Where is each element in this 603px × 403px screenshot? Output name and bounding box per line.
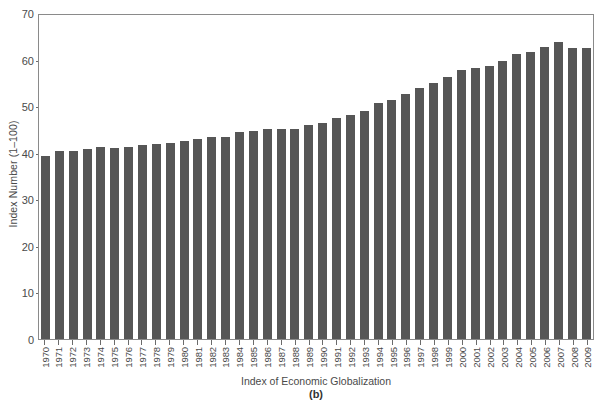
x-tick-label: 1976 (124, 347, 133, 377)
x-tick-label-text: 1999 (443, 347, 454, 368)
x-tick-label: 1970 (40, 347, 49, 377)
x-tick-label: 1974 (96, 347, 105, 377)
bar (540, 47, 549, 339)
bar (152, 144, 161, 339)
x-tick-label-text: 2006 (540, 347, 551, 368)
x-tick-label-text: 1987 (276, 347, 287, 368)
x-tick-mark (583, 340, 592, 345)
x-tick-label-text: 1974 (95, 347, 106, 368)
x-tick-label: 1990 (318, 347, 327, 377)
x-axis-title: Index of Economic Globalization (38, 375, 594, 387)
bar (55, 151, 64, 339)
x-tick-label: 2002 (486, 347, 495, 377)
bar (471, 68, 480, 339)
x-tick-mark (360, 340, 369, 345)
x-tick-label-text: 2005 (526, 347, 537, 368)
x-tick-mark (388, 340, 397, 345)
x-tick-label: 1981 (193, 347, 202, 377)
x-tick-label-text: 1997 (415, 347, 426, 368)
x-tick-label: 1983 (221, 347, 230, 377)
bar (443, 77, 452, 339)
x-tick-label: 1987 (277, 347, 286, 377)
x-tick-label: 1985 (249, 347, 258, 377)
x-tick-label: 2008 (569, 347, 578, 377)
bar (166, 143, 175, 339)
x-tick-mark (249, 340, 258, 345)
x-tick-mark (332, 340, 341, 345)
bar (263, 129, 272, 339)
y-tick-label: 50 (0, 101, 34, 113)
bar (498, 61, 507, 339)
x-tick-mark (346, 340, 355, 345)
x-tick-mark (151, 340, 160, 345)
x-tick-label-text: 1983 (220, 347, 231, 368)
x-tick-label-text: 1979 (164, 347, 175, 368)
bar (207, 137, 216, 339)
x-tick-mark (472, 340, 481, 345)
x-tick-label: 1986 (263, 347, 272, 377)
x-tick-label: 1978 (151, 347, 160, 377)
x-tick-label: 2001 (472, 347, 481, 377)
bar (526, 52, 535, 339)
x-tick-label: 1971 (54, 347, 63, 377)
x-tick-label-text: 1994 (373, 347, 384, 368)
x-axis-tick-labels: 1970197119721973197419751976197719781979… (38, 347, 594, 377)
bar (221, 137, 230, 339)
x-tick-mark (277, 340, 286, 345)
x-tick-mark (235, 340, 244, 345)
x-tick-mark (82, 340, 91, 345)
x-tick-label: 2005 (527, 347, 536, 377)
bar (332, 118, 341, 339)
bar (582, 48, 591, 339)
x-tick-mark (124, 340, 133, 345)
x-tick-mark (305, 340, 314, 345)
y-axis-tick-labels: 010203040506070 (0, 0, 34, 403)
x-tick-mark (263, 340, 272, 345)
bar (360, 111, 369, 339)
x-tick-label-text: 1998 (429, 347, 440, 368)
x-tick-label: 1996 (402, 347, 411, 377)
x-tick-mark (569, 340, 578, 345)
x-tick-label-text: 2003 (498, 347, 509, 368)
x-tick-label-text: 1991 (331, 347, 342, 368)
x-tick-label-text: 1973 (81, 347, 92, 368)
x-tick-mark (444, 340, 453, 345)
x-tick-label-text: 2008 (568, 347, 579, 368)
x-tick-label: 1972 (68, 347, 77, 377)
y-tick-label: 40 (0, 148, 34, 160)
economic-globalization-bar-chart: Index Number (1–100) 010203040506070 197… (0, 0, 603, 403)
x-tick-label-text: 1978 (150, 347, 161, 368)
bar (235, 132, 244, 339)
x-tick-label-text: 1988 (290, 347, 301, 368)
bar (193, 139, 202, 339)
x-tick-mark (179, 340, 188, 345)
x-tick-label-text: 1989 (304, 347, 315, 368)
x-tick-label: 1982 (207, 347, 216, 377)
x-tick-label: 1999 (444, 347, 453, 377)
x-tick-mark (137, 340, 146, 345)
x-tick-mark (40, 340, 49, 345)
x-tick-label: 1984 (235, 347, 244, 377)
x-tick-mark (291, 340, 300, 345)
x-tick-mark (318, 340, 327, 345)
x-tick-label-text: 1972 (67, 347, 78, 368)
bar (415, 88, 424, 339)
x-tick-mark (374, 340, 383, 345)
bar (83, 149, 92, 339)
x-tick-mark (193, 340, 202, 345)
y-tick-label: 30 (0, 194, 34, 206)
x-tick-mark (207, 340, 216, 345)
x-tick-label: 2007 (555, 347, 564, 377)
x-tick-label-text: 1992 (345, 347, 356, 368)
x-tick-label-text: 1990 (317, 347, 328, 368)
bar (69, 151, 78, 339)
bar (290, 129, 299, 340)
x-tick-label-text: 1970 (39, 347, 50, 368)
bar (318, 123, 327, 339)
x-tick-label-text: 1995 (387, 347, 398, 368)
x-tick-label-text: 1971 (53, 347, 64, 368)
x-tick-mark (458, 340, 467, 345)
y-tick-label: 10 (0, 287, 34, 299)
x-tick-label: 2009 (583, 347, 592, 377)
y-tick-label: 0 (0, 334, 34, 346)
